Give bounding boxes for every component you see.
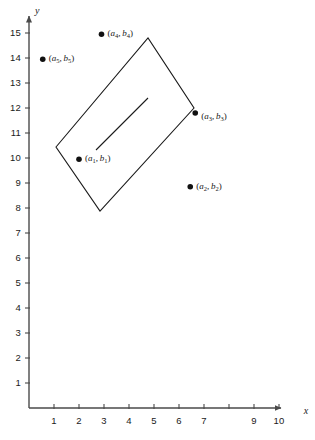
x-axis-label: x [304,406,308,416]
y-tick-label: 2 [0,353,21,363]
plot-canvas [0,0,315,440]
y-tick-label: 9 [0,178,21,188]
data-point-dot-p4 [99,31,105,37]
data-point-dot-p5 [40,56,46,62]
y-tick-label: 1 [0,378,21,388]
axis-lines [29,16,281,408]
region-polygon [56,38,194,211]
y-tick-label: 6 [0,253,21,263]
x-tick-label: 6 [165,416,193,426]
x-tick-label: 10 [265,416,293,426]
data-point-label-p1: (a1, b1) [85,154,111,163]
interior-diagonal-line [96,98,148,150]
y-tick-label: 5 [0,278,21,288]
y-tick-label: 14 [0,53,21,63]
data-point-dot-p1 [76,156,82,162]
y-tick-label: 12 [0,103,21,113]
y-tick-label: 13 [0,78,21,88]
y-tick-label: 10 [0,153,21,163]
x-tick-label: 3 [90,416,118,426]
data-point-dot-p2 [187,184,193,190]
x-tick-label: 4 [115,416,143,426]
y-tick-label: 11 [0,128,21,138]
x-tick-label: 2 [65,416,93,426]
data-point-label-p4: (a4, b4) [108,29,134,38]
data-point-label-p5: (a5, b5) [49,54,75,63]
data-point-label-p3: (a3, b3) [201,112,227,121]
y-tick-label: 8 [0,203,21,213]
x-tick-label: 7 [190,416,218,426]
scatter-plot-figure: y x 123456789101112131415 1234567910 (a1… [0,0,315,440]
y-tick-label: 4 [0,303,21,313]
data-point-label-p2: (a2, b2) [196,182,222,191]
x-tick-label: 9 [240,416,268,426]
x-tick-label: 5 [140,416,168,426]
y-tick-label: 7 [0,228,21,238]
y-tick-label: 3 [0,328,21,338]
y-tick-label: 15 [0,28,21,38]
x-tick-label: 1 [40,416,68,426]
y-axis-label: y [35,6,39,16]
data-point-dot-p3 [192,110,198,116]
